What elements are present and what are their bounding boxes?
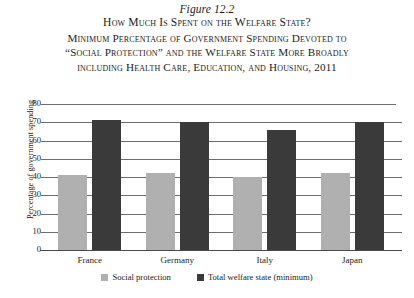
plot-area: 01020304050607080 [46, 104, 396, 250]
y-tick-mark-right-60 [396, 141, 402, 142]
y-tick-label-0: 0 [19, 244, 41, 255]
chart-legend: Social protectionTotal welfare state (mi… [0, 272, 414, 283]
y-tick-mark-right-30 [396, 195, 402, 196]
figure-title-line-4: including Health Care, Education, and Ho… [0, 60, 414, 75]
y-tick-label-60: 60 [19, 135, 41, 146]
bar-germany-social-protection [146, 173, 175, 250]
x-axis-category-labels: FranceGermanyItalyJapan [46, 254, 396, 270]
legend-label: Total welfare state (minimum) [208, 272, 313, 283]
x-axis-label-japan: Japan [309, 254, 397, 266]
bar-italy-total-welfare-state [267, 130, 296, 250]
legend-swatch-icon [197, 274, 204, 281]
bar-japan-total-welfare-state [355, 122, 384, 250]
x-axis-label-italy: Italy [221, 254, 309, 266]
y-tick-label-10: 10 [19, 226, 41, 237]
bar-france-total-welfare-state [92, 120, 121, 250]
legend-item-total-welfare-state[interactable]: Total welfare state (minimum) [197, 272, 313, 283]
bar-italy-social-protection [233, 177, 262, 250]
figure-title-line-1: How Much Is Spent on the Welfare State? [0, 16, 414, 31]
y-tick-mark-right-70 [396, 122, 402, 123]
figure-caption: Figure 12.2 How Much Is Spent on the Wel… [0, 2, 414, 74]
x-axis-line [40, 250, 402, 251]
y-tick-label-50: 50 [19, 153, 41, 164]
y-tick-label-80: 80 [19, 98, 41, 109]
bar-japan-social-protection [321, 173, 350, 250]
figure-title-line-2: Minimum Percentage of Government Spendin… [0, 31, 414, 46]
x-axis-label-france: France [46, 254, 134, 266]
y-tick-mark-right-10 [396, 232, 402, 233]
bar-germany-total-welfare-state [180, 122, 209, 250]
y-tick-label-40: 40 [19, 171, 41, 182]
legend-item-social-protection[interactable]: Social protection [101, 272, 170, 283]
x-axis-label-germany: Germany [134, 254, 222, 266]
y-tick-label-20: 20 [19, 208, 41, 219]
y-tick-mark-right-40 [396, 177, 402, 178]
bar-france-social-protection [58, 175, 87, 250]
figure-container: Figure 12.2 How Much Is Spent on the Wel… [0, 0, 414, 298]
y-tick-mark-right-50 [396, 159, 402, 160]
y-tick-label-30: 30 [19, 189, 41, 200]
bars-layer [46, 104, 396, 250]
y-tick-mark-right-20 [396, 214, 402, 215]
chart-plot: Percentage of government spending 010203… [0, 98, 414, 298]
figure-title-line-3: “Social Protection” and the Welfare Stat… [0, 45, 414, 60]
legend-label: Social protection [112, 272, 170, 283]
figure-number: Figure 12.2 [0, 2, 414, 16]
y-tick-label-70: 70 [19, 116, 41, 127]
legend-swatch-icon [101, 274, 108, 281]
